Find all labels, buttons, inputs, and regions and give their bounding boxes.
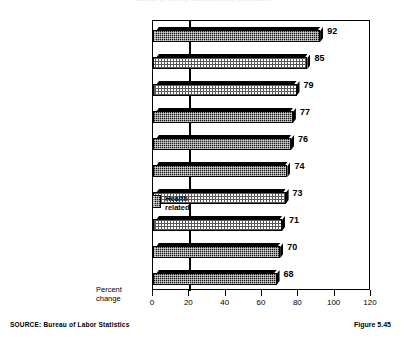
x-tick [261,290,262,296]
bar-body [153,138,291,150]
bar-1 [153,27,320,42]
value-label: 68 [284,269,294,280]
figure-bar-chart: Fastest growing occupations, projected H… [0,0,401,343]
value-label: 73 [293,188,303,199]
x-tick [188,290,189,296]
value-label: 74 [294,161,304,172]
chart-legend: Health related [152,195,190,212]
x-tick [152,290,153,296]
bar-body [153,273,277,285]
value-label: 71 [289,215,299,226]
bar-row: Human services workers71 [153,210,369,237]
bar-row: Medical secretaries68 [153,264,369,291]
source-note: SOURCE: Bureau of Labor Statistics [10,321,129,328]
bar-side-bevel [320,27,323,42]
bar-side-bevel [307,54,310,69]
bar-top-bevel [156,243,280,247]
value-label: 85 [314,53,324,64]
bar-side-bevel [291,135,294,150]
x-tick-label: 20 [173,298,203,307]
bar-body [153,111,293,123]
value-label: 79 [304,80,314,91]
bar-side-bevel [293,108,296,123]
value-label: 77 [300,107,310,118]
bar-9 [153,243,280,258]
bar-10 [153,270,277,285]
x-tick-label: 60 [246,298,276,307]
bar-side-bevel [277,270,280,285]
bar-side-bevel [280,243,283,258]
figure-number: Figure 5.45 [354,321,391,328]
legend-label: Health related [165,195,190,212]
bar-body [153,246,280,258]
bar-row: Personal and home care aides77 [153,102,369,129]
bar-top-bevel [156,189,286,193]
bar-2 [153,54,307,69]
bar-row: Computer systems analysts79 [153,75,369,102]
bar-body [153,84,297,96]
x-axis-title: Percent change [96,285,122,303]
bar-body [153,57,307,69]
value-label: 76 [298,134,308,145]
bar-5 [153,135,291,150]
bar-body [153,219,282,231]
plot-area: Home health aides92Paralegals85Computer … [152,20,370,290]
bar-top-bevel [156,81,297,85]
x-tick [225,290,226,296]
bar-6 [153,162,287,177]
bar-top-bevel [156,216,282,220]
bar-side-bevel [286,189,289,204]
bar-side-bevel [287,162,290,177]
bar-body [153,165,287,177]
x-tick-label: 80 [282,298,312,307]
bar-top-bevel [156,54,307,58]
bar-row: Home health aides92 [153,21,369,48]
bar-row: Paralegals85 [153,48,369,75]
bar-3 [153,81,297,96]
bar-8 [153,216,282,231]
x-tick-label: 0 [137,298,167,307]
bar-side-bevel [282,216,285,231]
value-label: 92 [327,26,337,37]
bar-top-bevel [156,162,287,166]
bar-top-bevel [156,135,291,139]
bar-top-bevel [156,270,277,274]
x-tick-label: 40 [210,298,240,307]
bar-row: Physical therapists76 [153,129,369,156]
bar-row: Radiologic technologists70 [153,237,369,264]
health-related-swatch [152,195,161,208]
x-tick [297,290,298,296]
x-tick-label: 120 [355,298,385,307]
x-tick [334,290,335,296]
value-label: 70 [287,242,297,253]
bar-4 [153,108,293,123]
bar-body [153,30,320,42]
x-tick [370,290,371,296]
bar-row: Medical assistants74 [153,156,369,183]
x-tick-label: 100 [319,298,349,307]
bar-top-bevel [156,27,320,31]
bar-top-bevel [156,108,293,112]
bar-side-bevel [297,81,300,96]
chart-title-cutoff: Fastest growing occupations, projected [0,0,401,2]
